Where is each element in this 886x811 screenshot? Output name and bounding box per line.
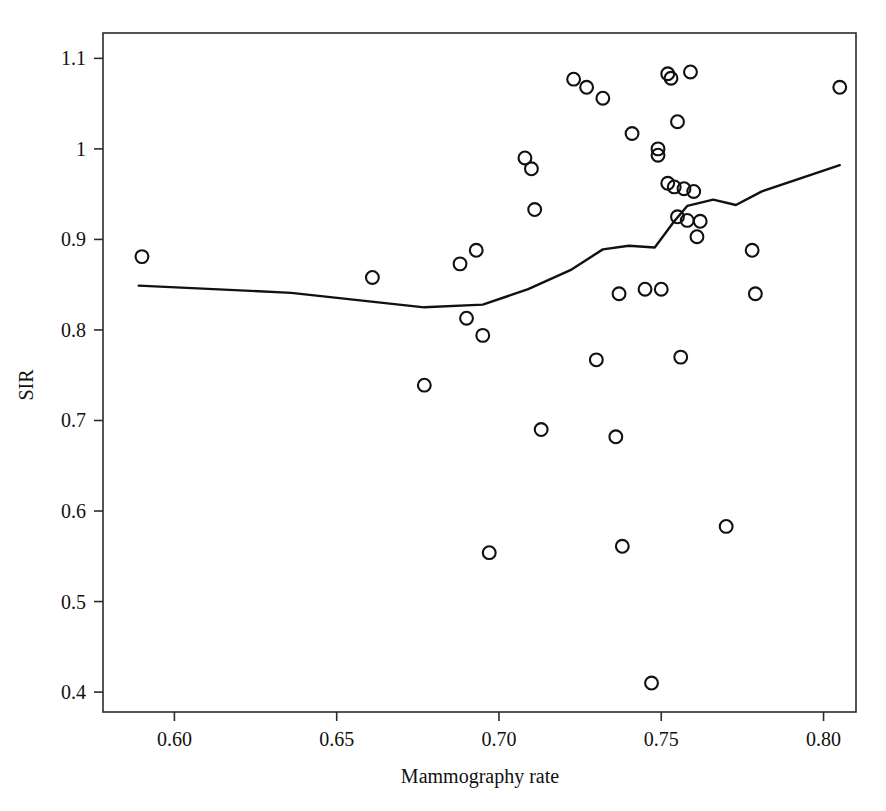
x-tick-label: 0.70 (481, 728, 516, 750)
x-tick-label: 0.65 (319, 728, 354, 750)
data-point (833, 81, 846, 94)
data-point (613, 287, 626, 300)
x-tick-label: 0.80 (806, 728, 841, 750)
y-axis-tick-labels: 0.40.50.60.70.80.911.1 (61, 47, 86, 703)
y-tick-label: 1 (76, 138, 86, 160)
y-tick-label: 0.6 (61, 500, 86, 522)
data-point (470, 244, 483, 257)
data-point (639, 283, 652, 296)
data-point (580, 81, 593, 94)
y-axis-ticks (94, 58, 103, 692)
data-point (616, 540, 629, 553)
data-point (746, 244, 759, 257)
x-axis-title: Mammography rate (401, 765, 559, 788)
data-point (609, 430, 622, 443)
data-point (366, 271, 379, 284)
y-tick-label: 0.9 (61, 228, 86, 250)
data-point (626, 127, 639, 140)
data-point (476, 329, 489, 342)
data-point (483, 546, 496, 559)
x-axis-ticks (174, 712, 823, 721)
scatter-plot-figure: 0.600.650.700.750.80 0.40.50.60.70.80.91… (0, 0, 886, 811)
data-point (691, 230, 704, 243)
data-point (671, 115, 684, 128)
x-tick-label: 0.75 (644, 728, 679, 750)
data-point (684, 66, 697, 79)
data-point (535, 423, 548, 436)
data-point (645, 677, 658, 690)
data-point (590, 353, 603, 366)
data-point (418, 379, 431, 392)
smoother-line (139, 165, 840, 307)
x-tick-label: 0.60 (157, 728, 192, 750)
y-tick-label: 0.7 (61, 409, 86, 431)
y-tick-label: 0.8 (61, 319, 86, 341)
data-point (655, 283, 668, 296)
data-point (674, 351, 687, 364)
data-point (454, 257, 467, 270)
data-point (720, 520, 733, 533)
plot-canvas: 0.600.650.700.750.80 0.40.50.60.70.80.91… (0, 0, 886, 811)
y-tick-label: 0.5 (61, 591, 86, 613)
smoother-line-path (139, 165, 840, 307)
data-point (596, 92, 609, 105)
data-point (694, 215, 707, 228)
data-point (567, 73, 580, 86)
plot-frame (103, 33, 856, 712)
data-point (136, 250, 149, 263)
y-axis-title: SIR (15, 369, 37, 401)
x-axis-tick-labels: 0.600.650.700.750.80 (157, 728, 841, 750)
y-tick-label: 1.1 (61, 47, 86, 69)
data-point (528, 203, 541, 216)
data-point (525, 162, 538, 175)
data-point (460, 312, 473, 325)
data-point (749, 287, 762, 300)
y-tick-label: 0.4 (61, 681, 86, 703)
data-point-markers (136, 66, 847, 690)
